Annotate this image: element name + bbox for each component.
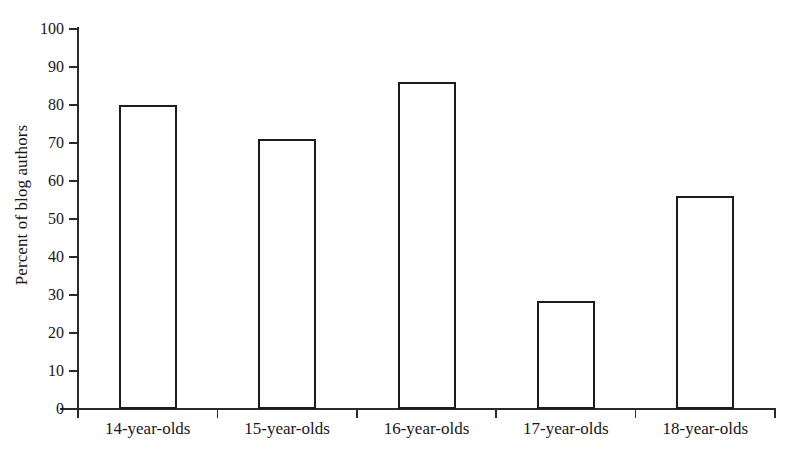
x-axis-tick (77, 409, 79, 418)
bar-chart-figure: Percent of blog authors 0102030405060708… (0, 0, 789, 463)
y-axis-tick-label: 90 (20, 59, 64, 75)
y-axis-tick (69, 180, 78, 182)
plot-area (78, 29, 775, 409)
y-axis-tick (69, 28, 78, 30)
y-axis-tick-label: 0 (20, 401, 64, 417)
y-axis-tick-label: 30 (20, 287, 64, 303)
x-axis-category-label: 15-year-olds (217, 420, 356, 439)
x-axis-tick (356, 409, 358, 418)
x-axis-category-label: 16-year-olds (357, 420, 496, 439)
y-axis-tick (69, 370, 78, 372)
x-axis-category-label: 17-year-olds (496, 420, 635, 439)
y-axis-tick (69, 218, 78, 220)
x-axis-category-label: 18-year-olds (636, 420, 775, 439)
bar (119, 105, 177, 409)
x-axis-tick (217, 409, 219, 418)
y-axis-tick (69, 294, 78, 296)
y-axis-tick-label: 20 (20, 325, 64, 341)
y-axis-tick-label: 70 (20, 135, 64, 151)
x-axis-tick (774, 409, 776, 418)
y-axis-tick-label: 80 (20, 97, 64, 113)
bar (537, 301, 595, 409)
y-axis-tick-label: 40 (20, 249, 64, 265)
y-axis-tick-label: 10 (20, 363, 64, 379)
bar (398, 82, 456, 409)
bar (676, 196, 734, 409)
y-axis-tick (69, 332, 78, 334)
y-axis-tick (69, 256, 78, 258)
y-axis-tick-label: 60 (20, 173, 64, 189)
y-axis-tick (69, 142, 78, 144)
y-axis-tick (69, 104, 78, 106)
y-axis-tick-label: 50 (20, 211, 64, 227)
x-axis-tick (635, 409, 637, 418)
y-axis-tick (69, 66, 78, 68)
x-axis-category-label: 14-year-olds (78, 420, 217, 439)
y-axis-tick-label: 100 (20, 21, 64, 37)
bar (258, 139, 316, 409)
x-axis-tick (495, 409, 497, 418)
